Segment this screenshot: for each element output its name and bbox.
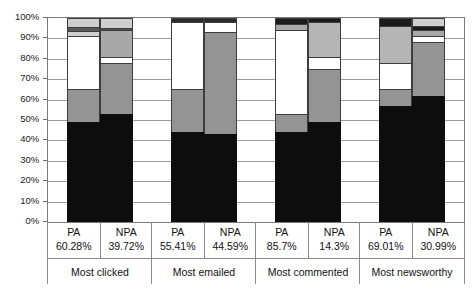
bar-segment [308,22,341,57]
bar-segment [100,114,133,222]
x-axis-group: PA60.28%NPA39.72%Most clicked [47,222,152,284]
y-axis-tick-label: 30% [0,155,39,165]
bar-most-emailed-pa[interactable] [171,18,204,222]
x-axis-group-label: Most newsworthy [371,266,452,278]
bar-most-newsworthy-npa[interactable] [412,18,445,222]
bar-segment [412,26,445,30]
bar-segment [204,134,237,222]
bar-segment [308,122,341,222]
x-axis-bar-name: PA [67,225,80,239]
bar-segment [67,31,100,36]
x-axis-group-subcells: PA69.01%NPA30.99% [360,222,464,259]
x-axis-bar-percent: 14.3% [319,239,349,253]
bars-layer [48,18,464,222]
bar-segment [171,89,204,132]
bar-segment [379,26,412,63]
bar-most-clicked-pa[interactable] [67,18,100,222]
bar-segment [100,30,133,57]
bar-segment [204,32,237,134]
bar-segment [412,18,445,26]
bar-segment [100,57,133,63]
x-axis-group: PA55.41%NPA44.59%Most emailed [151,222,256,284]
x-axis-bar-percent: 60.28% [56,239,92,253]
x-axis-bar-name: PA [275,225,288,239]
bar-segment [412,42,445,95]
y-axis-tick-label: 50% [0,114,39,124]
bar-segment [204,22,237,32]
bar-segment [275,114,308,132]
bar-segment [308,18,341,22]
bar-most-newsworthy-pa[interactable] [379,18,412,222]
x-axis-subcell: PA69.01% [360,222,412,258]
x-axis-bar-name: PA [379,225,392,239]
bar-segment [379,18,412,26]
y-axis-tick-label: 0% [0,216,39,226]
x-axis-group: PA69.01%NPA30.99%Most newsworthy [359,222,465,284]
x-axis-bar-percent: 39.72% [108,239,144,253]
y-axis-tick-label: 60% [0,94,39,104]
stacked-bar-chart: 0%10%20%30%40%50%60%70%80%90%100% PA60.2… [0,0,475,300]
bar-segment [67,122,100,222]
x-axis-label-table: PA60.28%NPA39.72%Most clickedPA55.41%NPA… [47,222,464,284]
y-axis: 0%10%20%30%40%50%60%70%80%90%100% [0,0,43,300]
bar-most-commented-pa[interactable] [275,18,308,222]
bar-segment [275,18,308,24]
bar-segment [412,30,445,36]
bar-segment [308,69,341,122]
x-axis-group-label: Most commented [268,266,349,278]
bar-segment [171,22,204,89]
x-axis-group-label: Most emailed [173,266,235,278]
bar-segment [100,63,133,114]
bar-segment [412,96,445,222]
x-axis-bar-percent: 55.41% [160,239,196,253]
bar-most-clicked-npa[interactable] [100,18,133,222]
x-axis-bar-name: NPA [220,225,241,239]
bar-segment [67,36,100,89]
x-axis-bar-name: NPA [324,225,345,239]
x-axis-group-label-row: Most newsworthy [360,259,464,284]
bar-segment [100,18,133,28]
x-axis-bar-name: NPA [428,225,449,239]
x-axis-subcell: NPA44.59% [204,222,257,258]
bar-segment [379,106,412,222]
y-axis-tick-label: 90% [0,32,39,42]
x-axis-bar-percent: 44.59% [212,239,248,253]
x-axis-bar-percent: 69.01% [368,239,404,253]
y-axis-tick-label: 10% [0,196,39,206]
x-axis-subcell: PA55.41% [152,222,204,258]
plot-area [47,17,465,223]
x-axis-subcell: NPA39.72% [100,222,153,258]
x-axis-subcell: NPA30.99% [412,222,465,258]
bar-segment [275,30,308,114]
x-axis-group-label-row: Most clicked [48,259,152,284]
y-axis-tick-label: 80% [0,53,39,63]
x-axis-group-subcells: PA60.28%NPA39.72% [48,222,152,259]
x-axis-subcell: PA85.7% [256,222,308,258]
bar-segment [412,36,445,42]
y-axis-tick-label: 40% [0,134,39,144]
bar-most-emailed-npa[interactable] [204,18,237,222]
bar-segment [67,27,100,31]
bar-segment [308,57,341,69]
x-axis-bar-name: NPA [116,225,137,239]
y-axis-tick-label: 70% [0,73,39,83]
x-axis-group-label: Most clicked [71,266,129,278]
x-axis-bar-name: PA [171,225,184,239]
bar-segment [204,18,237,22]
x-axis-subcell: NPA14.3% [308,222,361,258]
x-axis-subcell: PA60.28% [48,222,100,258]
bar-segment [275,24,308,30]
x-axis-group-label-row: Most commented [256,259,360,284]
x-axis-group-subcells: PA85.7%NPA14.3% [256,222,360,259]
bar-segment [275,132,308,222]
bar-segment [379,89,412,105]
x-axis-group: PA85.7%NPA14.3%Most commented [255,222,360,284]
x-axis-group-label-row: Most emailed [152,259,256,284]
y-axis-tick-label: 100% [0,12,39,22]
bar-most-commented-npa[interactable] [308,18,341,222]
x-axis-bar-percent: 85.7% [267,239,297,253]
bar-segment [67,18,100,27]
bar-segment [100,28,133,30]
bar-segment [171,18,204,22]
bar-segment [67,89,100,122]
